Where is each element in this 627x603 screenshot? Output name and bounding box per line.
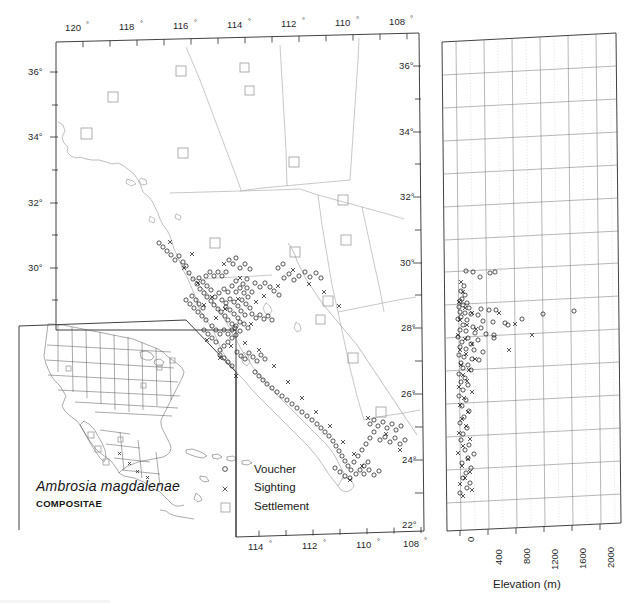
elev-tick-1600: 1600 <box>577 548 588 569</box>
political-borders <box>170 38 420 420</box>
lon-deg-top-116: ° <box>194 18 197 27</box>
lat-label-left-30: 30° <box>28 262 43 273</box>
lon-label-top-114: 114 <box>227 19 242 30</box>
lon-label-top-118: 118 <box>119 21 134 32</box>
inset-state-boundaries <box>46 325 180 486</box>
lon-deg-bottom-114: ° <box>269 539 272 548</box>
lon-label-top-120: 120 <box>65 22 81 33</box>
lat-label-right-36: 36° <box>399 60 414 71</box>
lat-label-left-36: 36° <box>28 66 43 77</box>
lon-deg-top-118: ° <box>140 19 143 28</box>
inset-occurrence-markers <box>66 358 175 479</box>
lon-deg-top-110: ° <box>356 15 359 24</box>
lat-label-right-30: 30° <box>400 257 415 268</box>
lat-label-right-34: 34° <box>399 126 414 137</box>
lat-label-right-24: 24° <box>402 454 417 465</box>
lon-label-top-110: 110 <box>335 17 350 28</box>
settlement-markers <box>81 63 386 417</box>
elev-tick-2000: 2000 <box>605 547 616 568</box>
lat-label-left-32: 32° <box>28 197 43 208</box>
map-linework-layer <box>0 0 627 603</box>
elev-tick-0: 0 <box>465 537 476 542</box>
lon-label-bottom-114: 114 <box>248 541 263 552</box>
elevation-axis-title: Elevation (m) <box>493 578 561 590</box>
lon-label-bottom-112: 112 <box>302 540 317 551</box>
lon-label-top-116: 116 <box>173 20 188 31</box>
lon-deg-top-108: ° <box>410 14 413 23</box>
lat-label-right-26: 26° <box>401 388 416 399</box>
lat-label-right-22: 22° <box>402 519 417 530</box>
legend-box <box>221 372 236 537</box>
settlement-square-icon <box>221 503 230 512</box>
species-distribution-figure: 120 ° 118 ° 116 ° 114 ° 112 ° 110 ° 108 … <box>0 0 627 603</box>
lon-label-bottom-110: 110 <box>356 539 371 550</box>
lon-label-bottom-108: 108 <box>403 538 419 549</box>
lon-deg-top-112: ° <box>302 16 305 25</box>
lon-label-top-112: 112 <box>281 18 296 29</box>
sighting-cross-icon <box>223 487 228 492</box>
lon-deg-top-114: ° <box>248 17 251 26</box>
lat-label-left-34: 34° <box>28 131 43 142</box>
voucher-circle-icon <box>223 467 228 472</box>
lon-label-top-108: 108 <box>389 16 405 27</box>
legend-label-voucher: Voucher <box>254 463 296 475</box>
elev-tick-400: 400 <box>493 549 504 565</box>
lat-label-right-32: 32° <box>400 191 415 202</box>
elevation-sighting-points <box>456 280 534 498</box>
main-map-left-ticks <box>50 72 58 300</box>
lon-deg-top-120: ° <box>86 20 89 29</box>
lat-label-right-28: 28° <box>401 322 416 333</box>
lon-deg-bottom-112: ° <box>323 538 326 547</box>
elev-tick-1200: 1200 <box>549 549 560 570</box>
legend-label-settlement: Settlement <box>254 500 309 512</box>
lon-deg-bottom-108: ° <box>424 536 427 545</box>
elev-tick-800: 800 <box>521 548 532 564</box>
taxon-family: COMPOSITAE <box>36 498 102 509</box>
lon-deg-bottom-110: ° <box>377 537 380 546</box>
elevation-panel <box>442 33 621 536</box>
elevation-voucher-points <box>456 269 576 495</box>
voucher-markers <box>157 241 407 480</box>
taxon-name: Ambrosia magdalenae <box>36 478 180 494</box>
legend-label-sighting: Sighting <box>254 481 296 493</box>
